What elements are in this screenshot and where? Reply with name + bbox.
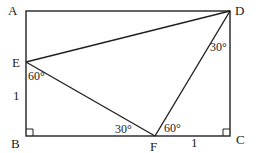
length-label-EB: 1 [13, 88, 20, 103]
angle-label-F-left: 30° [115, 122, 132, 136]
point-label-C: C [236, 132, 245, 147]
point-label-A: A [8, 3, 18, 18]
segment-ED [26, 11, 230, 62]
point-label-D: D [235, 3, 244, 18]
right-angle-marker-C [223, 129, 230, 136]
geometry-diagram: A D E B F C 60° 30° 30° 60° 1 1 [0, 0, 259, 153]
point-label-F: F [150, 139, 157, 153]
right-angle-marker-B [26, 129, 33, 136]
length-label-FC: 1 [191, 135, 198, 150]
rectangle-ABCD [26, 11, 230, 136]
segment-EF [26, 62, 155, 136]
diagram-svg: A D E B F C 60° 30° 30° 60° 1 1 [0, 0, 259, 153]
point-label-B: B [11, 136, 20, 151]
angle-label-E: 60° [28, 69, 45, 83]
angle-label-F-right: 60° [164, 121, 181, 135]
point-label-E: E [12, 55, 20, 70]
angle-label-D: 30° [210, 40, 227, 54]
segment-FD [155, 11, 230, 136]
